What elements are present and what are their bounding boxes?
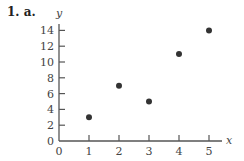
y-axis-label: y [55,7,63,20]
x-tick-label: 4 [176,145,183,158]
x-tick-label: 1 [86,145,93,158]
problem-label: 1. a. [7,5,36,19]
y-tick-label: 12 [40,40,54,53]
y-tick-label: 6 [47,88,54,101]
y-tick-label: 0 [47,135,54,148]
x-tick-label: 5 [206,145,213,158]
data-point [176,51,182,57]
x-tick-label: 2 [116,145,123,158]
data-point [86,114,92,120]
x-tick-label: 0 [56,145,63,158]
x-axis-label: x [226,134,233,147]
y-tick-label: 10 [40,56,54,69]
data-point [206,27,212,33]
data-point [146,99,152,105]
x-tick-label: 3 [146,145,153,158]
y-tick-label: 14 [40,24,54,37]
data-point [116,83,122,89]
y-tick-label: 4 [47,103,54,116]
y-tick-label: 2 [47,119,54,132]
y-tick-label: 8 [47,72,54,85]
scatter-chart: 1. a. y x 01234502468101214 [0,0,244,161]
